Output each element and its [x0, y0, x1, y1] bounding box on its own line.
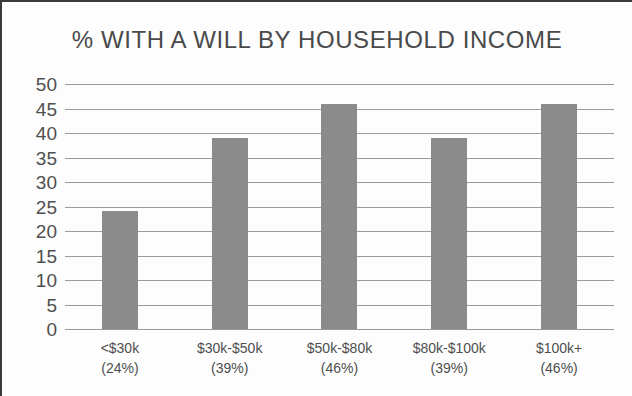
gridline: [65, 329, 614, 330]
x-tick-label: <$30k: [65, 338, 175, 358]
gridline: [65, 280, 614, 281]
y-tick-label: 20: [36, 222, 57, 241]
x-axis-label-group: $100k+(46%): [504, 338, 614, 378]
x-tick-sublabel: (39%): [394, 358, 504, 378]
x-tick-label: $80k-$100k: [394, 338, 504, 358]
y-tick-label: 40: [36, 124, 57, 143]
y-tick-label: 35: [36, 148, 57, 167]
x-tick-sublabel: (39%): [175, 358, 285, 378]
x-tick-label: $50k-$80k: [285, 338, 395, 358]
gridline: [65, 84, 614, 85]
gridline: [65, 133, 614, 134]
x-tick-sublabel: (24%): [65, 358, 175, 378]
x-tick-sublabel: (46%): [285, 358, 395, 378]
gridline: [65, 109, 614, 110]
y-tick-label: 15: [36, 246, 57, 265]
x-tick-label: $100k+: [504, 338, 614, 358]
gridline: [65, 182, 614, 183]
x-tick-label: $30k-$50k: [175, 338, 285, 358]
y-tick-label: 5: [46, 295, 57, 314]
plot-area: [65, 84, 614, 329]
x-axis-label-group: <$30k(24%): [65, 338, 175, 378]
x-axis-label-group: $80k-$100k(39%): [394, 338, 504, 378]
y-tick-label: 25: [36, 197, 57, 216]
gridline: [65, 256, 614, 257]
y-tick-label: 45: [36, 99, 57, 118]
gridline: [65, 231, 614, 232]
gridline: [65, 158, 614, 159]
y-tick-label: 30: [36, 173, 57, 192]
x-tick-sublabel: (46%): [504, 358, 614, 378]
y-tick-label: 50: [36, 75, 57, 94]
y-tick-label: 0: [46, 320, 57, 339]
chart-title: % WITH A WILL BY HOUSEHOLD INCOME: [2, 26, 632, 54]
y-tick-label: 10: [36, 271, 57, 290]
y-axis: 50454035302520151050: [2, 84, 57, 329]
gridline: [65, 305, 614, 306]
x-axis-label-group: $50k-$80k(46%): [285, 338, 395, 378]
gridline: [65, 207, 614, 208]
bar-chart-figure: % WITH A WILL BY HOUSEHOLD INCOME 504540…: [0, 0, 632, 396]
x-axis: <$30k(24%)$30k-$50k(39%)$50k-$80k(46%)$8…: [65, 338, 614, 388]
x-axis-label-group: $30k-$50k(39%): [175, 338, 285, 378]
